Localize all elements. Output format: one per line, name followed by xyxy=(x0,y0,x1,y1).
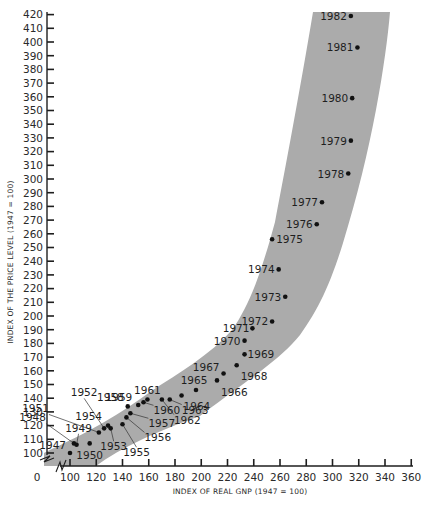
y-tick-label: 290 xyxy=(23,187,43,199)
x-tick-label: 320 xyxy=(349,471,369,483)
point-year-label: 1949 xyxy=(65,422,92,434)
data-point xyxy=(120,422,125,427)
point-year-label: 1973 xyxy=(255,291,282,303)
y-tick-label: 250 xyxy=(23,241,43,253)
point-year-label: 1952 xyxy=(71,386,98,398)
point-year-label: 1977 xyxy=(291,196,318,208)
x-tick-label: 260 xyxy=(270,471,290,483)
data-point xyxy=(141,400,146,405)
point-year-label: 1981 xyxy=(327,41,354,53)
x-axis-title: INDEX OF REAL GNP (1947 = 100) xyxy=(173,487,308,496)
x-tick-label: 220 xyxy=(217,471,237,483)
point-year-label: 1955 xyxy=(123,446,150,458)
data-point xyxy=(179,393,184,398)
data-point xyxy=(74,442,79,447)
x-tick-label: 120 xyxy=(86,471,106,483)
data-point xyxy=(270,237,275,242)
x-tick-label: 280 xyxy=(296,471,316,483)
point-year-label: 1972 xyxy=(241,315,268,327)
y-tick-label: 160 xyxy=(23,365,43,377)
x-tick-label: 340 xyxy=(375,471,395,483)
point-year-label: 1957 xyxy=(148,417,175,429)
data-point xyxy=(124,415,129,420)
data-point xyxy=(97,430,102,435)
data-point xyxy=(215,378,220,383)
y-tick-label: 170 xyxy=(23,351,43,363)
data-point xyxy=(221,371,226,376)
point-year-label: 1982 xyxy=(320,10,347,22)
scatter-chart: 1001101201301401501601701801902002102202… xyxy=(0,0,427,505)
point-year-label: 1954 xyxy=(75,410,102,422)
y-tick-label: 210 xyxy=(23,296,43,308)
data-point xyxy=(128,411,133,416)
data-point xyxy=(349,138,354,143)
x-tick-label: 160 xyxy=(139,471,159,483)
data-point xyxy=(160,397,165,402)
x-tick-label: 200 xyxy=(191,471,211,483)
point-year-label: 1970 xyxy=(214,335,241,347)
point-year-label: 1959 xyxy=(106,391,133,403)
data-point xyxy=(314,222,319,227)
point-year-label: 1967 xyxy=(193,361,220,373)
point-year-label: 1965 xyxy=(181,374,208,386)
data-point xyxy=(87,441,92,446)
y-tick-label: 410 xyxy=(23,22,43,34)
y-tick-label: 380 xyxy=(23,63,43,75)
y-axis-ticks: 1001101201301401501601701801902002102202… xyxy=(23,8,54,458)
y-tick-label: 300 xyxy=(23,173,43,185)
y-tick-label: 190 xyxy=(23,324,43,336)
data-point xyxy=(242,338,247,343)
point-year-label: 1950 xyxy=(76,449,103,461)
x-tick-label: 240 xyxy=(244,471,264,483)
y-tick-label: 340 xyxy=(23,118,43,130)
y-tick-label: 360 xyxy=(23,91,43,103)
y-tick-label: 240 xyxy=(23,255,43,267)
y-tick-label: 260 xyxy=(23,228,43,240)
y-tick-label: 150 xyxy=(23,378,43,390)
point-year-label: 1976 xyxy=(286,218,313,230)
x-tick-label: 180 xyxy=(165,471,185,483)
x-tick-label: 0 xyxy=(34,471,41,483)
y-tick-label: 220 xyxy=(23,282,43,294)
y-tick-label: 390 xyxy=(23,50,43,62)
y-tick-label: 420 xyxy=(23,8,43,20)
point-year-label: 1951 xyxy=(22,402,49,414)
point-year-label: 1969 xyxy=(248,348,275,360)
x-tick-label: 100 xyxy=(60,471,80,483)
data-point xyxy=(68,451,73,456)
data-point xyxy=(234,363,239,368)
point-year-label: 1964 xyxy=(184,400,211,412)
data-point xyxy=(167,397,172,402)
data-point xyxy=(145,397,150,402)
x-tick-label: 140 xyxy=(112,471,132,483)
point-year-label: 1978 xyxy=(318,168,345,180)
point-year-label: 1974 xyxy=(248,263,275,275)
y-tick-label: 330 xyxy=(23,132,43,144)
y-tick-label: 350 xyxy=(23,104,43,116)
data-point xyxy=(320,200,325,205)
y-tick-label: 310 xyxy=(23,159,43,171)
point-year-label: 1979 xyxy=(320,135,347,147)
data-point xyxy=(242,352,247,357)
point-year-label: 1980 xyxy=(321,92,348,104)
data-point xyxy=(102,426,107,431)
point-year-label: 1961 xyxy=(134,384,161,396)
data-point xyxy=(270,319,275,324)
data-point xyxy=(355,45,360,50)
data-point xyxy=(276,267,281,272)
y-tick-label: 270 xyxy=(23,214,43,226)
data-point xyxy=(283,295,288,300)
y-tick-label: 320 xyxy=(23,145,43,157)
data-point xyxy=(350,96,355,101)
data-point xyxy=(349,14,354,19)
data-point xyxy=(194,388,199,393)
data-point xyxy=(346,171,351,176)
y-tick-label: 400 xyxy=(23,36,43,48)
y-tick-label: 280 xyxy=(23,200,43,212)
point-year-label: 1966 xyxy=(221,386,248,398)
point-year-label: 1947 xyxy=(39,439,66,451)
point-year-label: 1975 xyxy=(276,233,303,245)
point-year-label: 1956 xyxy=(144,431,171,443)
x-tick-label: 300 xyxy=(322,471,342,483)
y-tick-label: 230 xyxy=(23,269,43,281)
